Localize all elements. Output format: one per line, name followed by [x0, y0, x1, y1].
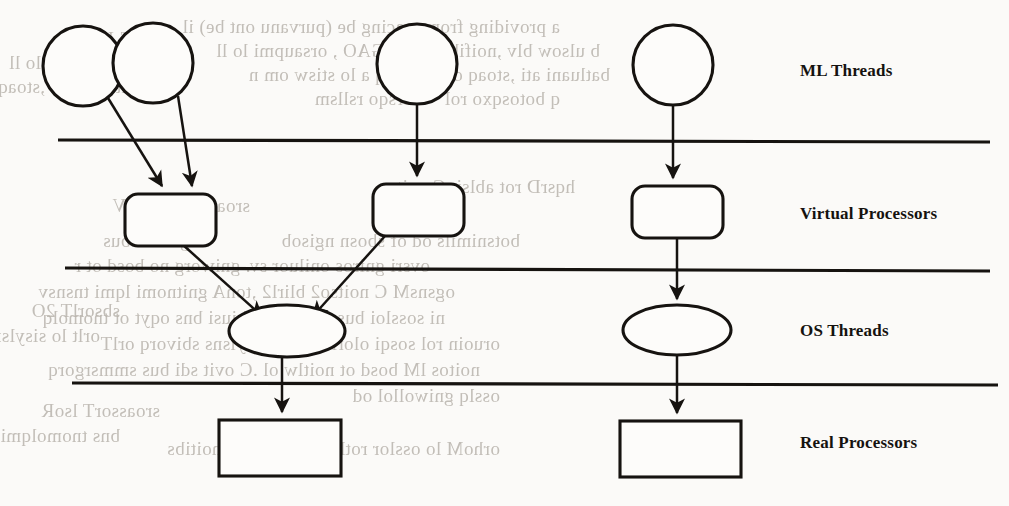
virtual-processor-3 — [632, 186, 723, 238]
edge-ml1-vp1 — [108, 98, 162, 186]
real-processor-1 — [219, 420, 341, 476]
diagram-nodes — [43, 23, 741, 477]
layer-label-ml-threads: ML Threads — [800, 61, 893, 81]
virtual-processor-1 — [125, 194, 216, 246]
os-thread-1 — [229, 305, 345, 357]
ml-thread-3 — [377, 24, 457, 104]
layer-label-real-processors: Real Processors — [800, 433, 917, 453]
real-processor-2 — [620, 421, 741, 477]
ml-thread-2 — [113, 23, 193, 103]
divider-ml-vp — [58, 140, 990, 142]
edge-arrows — [108, 96, 677, 413]
scanned-page: a providing from cracing be (purvanu ont… — [0, 0, 1009, 506]
layer-label-os-threads: OS Threads — [800, 321, 889, 341]
ml-thread-4 — [633, 25, 713, 105]
layer-label-virtual-processors: Virtual Processors — [800, 204, 937, 224]
virtual-processor-2 — [373, 184, 464, 236]
divider-os-rp — [72, 383, 998, 385]
edge-vp2-os1 — [313, 236, 385, 316]
divider-vp-os — [65, 268, 990, 271]
os-thread-2 — [623, 305, 731, 355]
edge-vp1-os1 — [182, 244, 262, 316]
ml-thread-1 — [43, 26, 123, 106]
scheduling-hierarchy-diagram: ML ThreadsVirtual ProcessorsOS ThreadsRe… — [0, 0, 1009, 506]
layer-divider-lines — [58, 140, 998, 385]
